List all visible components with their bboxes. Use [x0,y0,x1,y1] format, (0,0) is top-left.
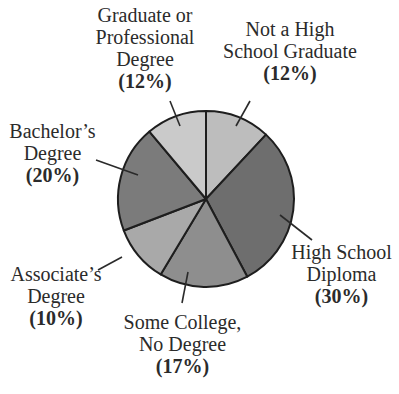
label-line: School Graduate [205,40,375,62]
label-line: High School [284,241,399,263]
label-line: Associate’s [0,263,112,285]
label-percent: (20%) [0,164,105,186]
label-line: Bachelor’s [0,120,105,142]
label-bachelors-degree: Bachelor’s Degree (20%) [0,120,105,186]
label-line: Degree [70,48,220,70]
label-line: Degree [0,142,105,164]
label-percent: (10%) [0,307,112,329]
label-graduate-degree: Graduate or Professional Degree (12%) [70,4,220,92]
label-line: Not a High [205,18,375,40]
label-not-hs-graduate: Not a High School Graduate (12%) [205,18,375,84]
label-line: Professional [70,26,220,48]
pie-slices [118,111,294,287]
label-percent: (17%) [110,355,255,377]
label-line: No Degree [110,333,255,355]
label-line: Some College, [110,311,255,333]
label-percent: (30%) [284,285,399,307]
label-line: Diploma [284,263,399,285]
label-percent: (12%) [205,62,375,84]
label-line: Graduate or [70,4,220,26]
label-some-college: Some College, No Degree (17%) [110,311,255,377]
label-hs-diploma: High School Diploma (30%) [284,241,399,307]
label-associates-degree: Associate’s Degree (10%) [0,263,112,329]
label-percent: (12%) [70,70,220,92]
label-line: Degree [0,285,112,307]
